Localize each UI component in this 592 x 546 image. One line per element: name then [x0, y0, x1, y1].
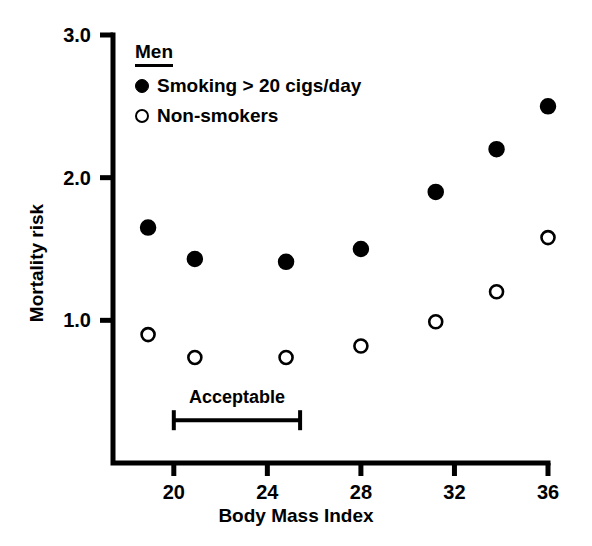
x-axis-tick-label: 32: [443, 481, 465, 504]
data-point-smoker: [141, 220, 156, 235]
data-point-non-smoker: [280, 351, 293, 364]
data-point-smoker: [353, 242, 368, 257]
data-point-smoker: [541, 99, 556, 114]
x-axis-tick-label: 28: [350, 481, 372, 504]
legend-entry-smokers: Smoking > 20 cigs/day: [135, 75, 361, 97]
data-point-non-smoker: [354, 340, 367, 353]
x-axis-tick-label: 24: [256, 481, 278, 504]
series-non-smokers: [142, 231, 555, 364]
data-point-non-smoker: [188, 351, 201, 364]
data-point-smoker: [428, 184, 443, 199]
data-point-non-smoker: [142, 328, 155, 341]
x-axis-tick-label: 36: [537, 481, 559, 504]
acceptable-range-label: Acceptable: [189, 387, 285, 408]
data-point-smoker: [489, 142, 504, 157]
data-point-smoker: [187, 251, 202, 266]
open-circle-icon: [135, 109, 149, 123]
data-point-non-smoker: [490, 285, 503, 298]
legend-entry-non-smokers: Non-smokers: [135, 105, 361, 127]
data-point-non-smoker: [542, 231, 555, 244]
acceptable-range-bracket: [174, 410, 300, 430]
legend-entry-label: Non-smokers: [157, 105, 278, 127]
data-point-smoker: [279, 254, 294, 269]
x-axis-tick-label: 20: [163, 481, 185, 504]
data-point-non-smoker: [429, 315, 442, 328]
chart-legend: Men Smoking > 20 cigs/day Non-smokers: [135, 42, 361, 127]
scatter-plot-figure: 1.02.03.02024283236 Mortality risk Body …: [0, 0, 592, 546]
y-axis-title: Mortality risk: [26, 163, 48, 363]
legend-entry-label: Smoking > 20 cigs/day: [157, 75, 361, 97]
y-axis-tick-label: 3.0: [3, 24, 91, 47]
x-axis-title: Body Mass Index: [0, 505, 592, 527]
filled-circle-icon: [135, 79, 149, 93]
legend-title: Men: [135, 42, 173, 67]
